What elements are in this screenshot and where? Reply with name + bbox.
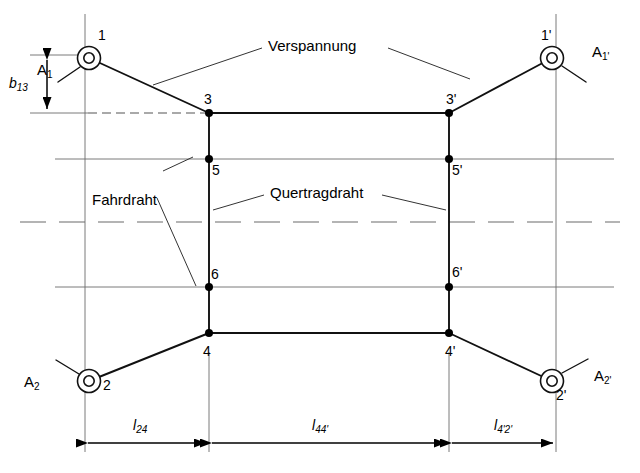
terminal-label-a1p: A1' <box>592 44 610 59</box>
dot-node-4 <box>205 329 213 337</box>
terminal-a1-base: A <box>37 61 47 78</box>
leader-a2p <box>562 359 588 373</box>
dot-node-3 <box>205 109 213 117</box>
leader-fahrdraht-lower <box>157 198 196 286</box>
terminal-a2p-base: A <box>594 367 604 384</box>
leader-verspannung-left <box>153 48 262 85</box>
dimension-l4p2p-sub: 4'2' <box>497 424 512 435</box>
node-label-5: 5 <box>212 163 220 177</box>
dimension-label-l44p: l44' <box>312 418 328 432</box>
leader-quertragdraht-left <box>213 195 264 210</box>
node-label-3p: 3' <box>446 92 456 106</box>
terminal-label-a1: A1 <box>37 62 53 77</box>
reference-lines <box>30 55 614 287</box>
terminal-a1p-sub: 1' <box>602 51 609 62</box>
cross-span-wire <box>89 58 552 381</box>
annotation-fahrdraht: Fahrdraht <box>92 192 157 207</box>
dimension-l44p-sub: 44' <box>315 424 328 435</box>
insulator-node-1 <box>78 47 101 70</box>
node-label-4p: 4' <box>445 344 455 358</box>
insulator-node-1p <box>541 47 564 70</box>
node-label-2p: 2' <box>556 388 566 402</box>
leader-a2 <box>56 360 79 374</box>
dot-node-6p <box>445 283 453 291</box>
wire-3p-1p <box>449 58 552 113</box>
dot-node-4p <box>445 329 453 337</box>
leader-a1 <box>58 67 80 82</box>
catenary-cross-span-diagram: 1 1' 2 2' 3 3' 4 4' 5 5' 6 6' A1 A1' A2 … <box>0 0 640 473</box>
dot-node-6 <box>205 283 213 291</box>
terminal-label-a2: A2 <box>24 374 40 389</box>
dimension-l24-sub: 24 <box>136 424 147 435</box>
node-label-4: 4 <box>203 344 211 358</box>
diagram-canvas <box>0 0 640 473</box>
dimension-label-l4p2p: l4'2' <box>494 418 512 432</box>
dimension-label-b13: b13 <box>9 76 28 90</box>
terminal-a1p-base: A <box>592 43 602 60</box>
construction-lines <box>85 14 556 452</box>
terminal-a2-sub: 2 <box>34 381 40 392</box>
node-label-1: 1 <box>98 28 106 42</box>
node-label-6p: 6' <box>452 265 462 279</box>
node-label-2: 2 <box>103 378 111 392</box>
node-label-5p: 5' <box>452 163 462 177</box>
node-label-3: 3 <box>204 92 212 106</box>
wire-4p-2p <box>449 333 552 381</box>
terminal-a2-base: A <box>24 373 34 390</box>
dimension-label-l24: l24 <box>133 418 147 432</box>
junction-dots <box>205 109 453 337</box>
leader-quertragdraht-right <box>382 195 446 210</box>
terminal-a1-sub: 1 <box>47 69 53 80</box>
annotation-quertragdraht: Quertragdraht <box>270 185 363 200</box>
dot-node-3p <box>445 109 453 117</box>
node-label-6: 6 <box>211 267 219 281</box>
terminal-label-a2p: A2' <box>594 368 612 383</box>
wire-1-3 <box>89 58 209 113</box>
annotation-verspannung: Verspannung <box>268 38 356 53</box>
insulator-symbols <box>78 47 564 393</box>
wire-2-4 <box>89 333 209 381</box>
terminal-a2p-sub: 2' <box>604 375 611 386</box>
leader-a1p <box>562 66 586 82</box>
dimension-b13-base: b <box>9 75 17 91</box>
insulator-node-2 <box>78 370 101 393</box>
annotation-leaders <box>153 48 470 286</box>
leader-verspannung-right <box>388 48 470 79</box>
node-label-1p: 1' <box>541 28 551 42</box>
dimension-b13-sub: 13 <box>17 82 28 93</box>
